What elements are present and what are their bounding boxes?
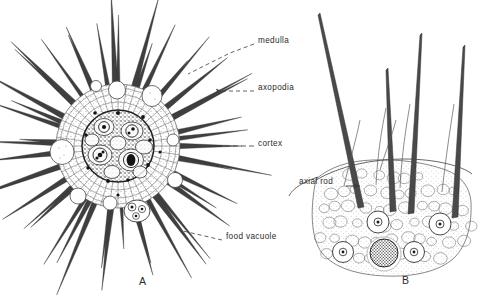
panel-letter-a: A [139, 275, 147, 287]
leader-medulla-2 [188, 54, 228, 74]
food-vacuole [124, 200, 150, 222]
label-food-vacuole: food vacuole [226, 232, 277, 241]
leader-medulla [230, 44, 254, 53]
radiolarian-figure: medulla axopodia cortex food vacuole axi… [0, 0, 488, 301]
panel-letter-b: B [402, 274, 410, 286]
panel-a-artwork [0, 0, 272, 295]
label-axial-rod: axial rod [299, 177, 333, 186]
panel-b-artwork [289, 13, 477, 276]
panel-a-leaders [183, 44, 254, 240]
label-medulla: medulla [258, 36, 289, 45]
panel-b-food-vacuole [367, 237, 401, 271]
figure-artwork [0, 0, 488, 301]
label-cortex: cortex [258, 139, 282, 148]
label-axopodia: axopodia [258, 83, 294, 92]
